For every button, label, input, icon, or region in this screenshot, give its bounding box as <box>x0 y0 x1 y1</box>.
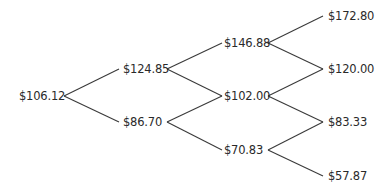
binomial-tree-diagram: $106.12 $124.85 $86.70 $146.88 $102.00 $… <box>0 0 389 194</box>
node-uud-price: $120.00 <box>328 62 374 76</box>
node-ddd-price: $57.87 <box>328 169 367 183</box>
node-down-down-price: $70.83 <box>224 143 263 157</box>
edge-n0-n1u <box>64 69 119 96</box>
node-udd-price: $83.33 <box>328 115 367 129</box>
edge-n2uu-n3uud <box>268 43 323 69</box>
edge-n1u-n2ud <box>167 69 222 96</box>
edge-n1d-n2dd <box>167 122 222 150</box>
edge-n2ud-n3udd <box>268 96 323 122</box>
edge-n1d-n2ud <box>167 96 222 122</box>
node-up-down-price: $102.00 <box>224 89 270 103</box>
edge-n2ud-n3uud <box>268 69 323 96</box>
node-root-price: $106.12 <box>19 89 65 103</box>
node-down-price: $86.70 <box>123 115 162 129</box>
node-up-price: $124.85 <box>123 62 169 76</box>
edge-n2dd-n3udd <box>268 122 323 150</box>
node-up-up-price: $146.88 <box>224 36 270 50</box>
node-uuu-price: $172.80 <box>328 9 374 23</box>
edge-n1u-n2uu <box>167 43 222 69</box>
edge-n2uu-n3uuu <box>268 16 323 43</box>
edge-n0-n1d <box>64 96 119 122</box>
edge-n2dd-n3ddd <box>268 150 323 176</box>
